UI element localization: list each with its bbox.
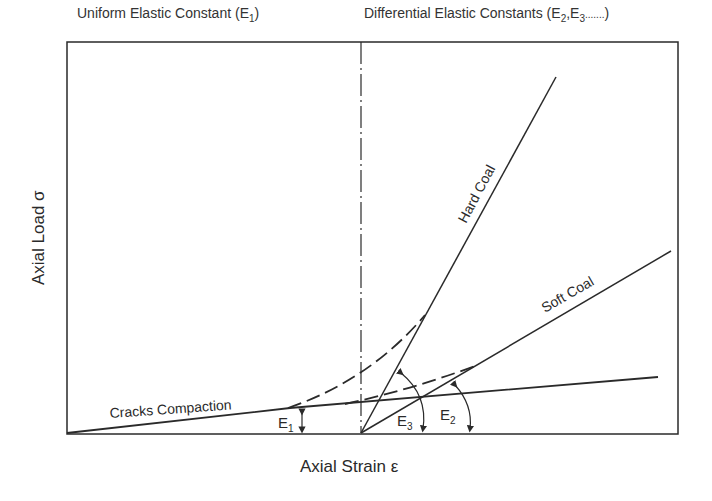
e1-label: E1 — [278, 414, 294, 434]
y-axis-label: Axial Load σ — [29, 190, 48, 285]
diagram-canvas: E1 E3 E2 Cracks Compaction Hard Coal Sof… — [0, 0, 712, 501]
soft-coal-label: Soft Coal — [539, 273, 597, 316]
x-axis-label: Axial Strain ε — [300, 457, 399, 476]
soft-coal-line — [361, 251, 671, 433]
e2-angle-arc — [455, 385, 470, 429]
e2-label: E2 — [440, 406, 456, 426]
upper-dashed-transition — [288, 315, 425, 408]
hard-coal-line — [361, 77, 556, 433]
e3-label: E3 — [397, 412, 413, 432]
plot-frame — [67, 42, 678, 434]
